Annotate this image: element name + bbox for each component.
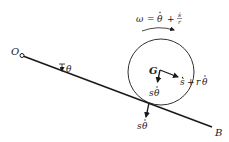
svg-text:r: r (178, 18, 182, 25)
g-velocity-along-arrow (160, 70, 178, 77)
svg-text:θ: θ (154, 88, 160, 98)
svg-text:ṡ: ṡ (180, 77, 185, 87)
label-theta: θ (66, 64, 72, 74)
g-velocity-normal-label: s θ (149, 86, 160, 98)
svg-text:ω: ω (136, 14, 144, 24)
svg-text:+: + (167, 14, 175, 24)
label-g: G (149, 65, 158, 76)
disk-on-rotating-bar-diagram: O θ ω = θ + ṡ r G ṡ + r θ s θ s (0, 0, 229, 142)
pivot-o (20, 54, 24, 58)
contact-velocity-label: s θ (137, 119, 148, 131)
bar-ob (23, 56, 212, 127)
label-o: O (11, 46, 19, 57)
g-velocity-along-label: ṡ + r θ (180, 75, 208, 87)
svg-text:θ: θ (202, 77, 208, 87)
contact-velocity-arrow (146, 103, 149, 117)
svg-text:ṡ: ṡ (178, 11, 181, 18)
svg-text:θ: θ (157, 14, 163, 24)
svg-text:r: r (196, 77, 201, 87)
svg-text:+: + (187, 77, 195, 87)
label-b: B (214, 127, 222, 138)
svg-text:=: = (147, 14, 155, 24)
omega-rotation-arrow (142, 28, 174, 31)
disk (128, 39, 194, 105)
omega-equation: ω = θ + ṡ r (136, 11, 182, 25)
g-velocity-normal-arrow (158, 70, 161, 82)
svg-text:θ: θ (142, 121, 148, 131)
